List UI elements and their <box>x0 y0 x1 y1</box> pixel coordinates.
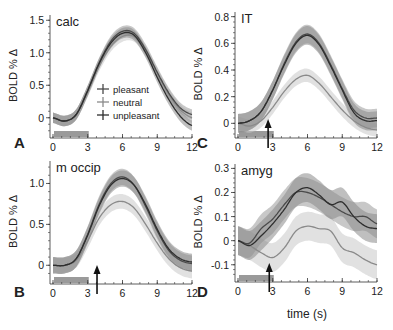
y-tick-label: 0.2 <box>214 186 229 198</box>
stimulus-bar <box>54 277 89 283</box>
y-tick-label: -0.1 <box>211 259 229 271</box>
panel-title: calc <box>56 14 80 29</box>
legend-label-unpleasant: unpleasant <box>113 110 160 121</box>
panel-title: IT <box>241 11 253 26</box>
y-tick-label: 0.6 <box>214 37 229 49</box>
x-tick-label: 9 <box>154 141 160 153</box>
y-tick-label: 1.0 <box>29 177 44 189</box>
x-tick-label: 9 <box>339 285 345 297</box>
y-tick-label: 0.2 <box>214 91 229 103</box>
y-tick-label: 1.5 <box>29 14 44 26</box>
x-tick-label: 12 <box>371 285 383 297</box>
y-axis-label: BOLD % Δ <box>7 194 19 248</box>
y-tick-label: 0 <box>38 259 44 271</box>
y-axis-label: BOLD % Δ <box>192 47 204 101</box>
y-tick-label: 0 <box>223 235 229 247</box>
y-tick-label: 0.5 <box>29 218 44 230</box>
x-tick-label: 0 <box>235 141 241 153</box>
panel-c: 00.20.40.60.8BOLD % Δ036912ITC <box>192 11 383 153</box>
panel-a: 00.51.01.5BOLD % Δ036912calcApleasantneu… <box>7 14 198 153</box>
arrow-icon <box>94 265 101 274</box>
legend-label-pleasant: pleasant <box>113 84 149 95</box>
panel-letter: C <box>197 134 208 151</box>
error-band-unpleasant <box>53 170 192 274</box>
y-tick-label: 0.4 <box>214 64 229 76</box>
y-tick-label: 0.3 <box>214 162 229 174</box>
x-tick-label: 6 <box>120 141 126 153</box>
panel-letter: D <box>197 283 208 300</box>
x-tick-label: 12 <box>371 141 383 153</box>
y-tick-label: 0.8 <box>214 11 229 23</box>
y-axis-label: BOLD % Δ <box>192 195 204 249</box>
x-tick-label: 6 <box>305 141 311 153</box>
legend-label-neutral: neutral <box>113 97 142 108</box>
legend: pleasantneutralunpleasant <box>97 84 160 121</box>
x-tick-label: 9 <box>339 141 345 153</box>
y-tick-label: 0 <box>223 117 229 129</box>
x-tick-label: 3 <box>85 287 91 299</box>
figure-canvas: 00.51.01.5BOLD % Δ036912calcApleasantneu… <box>0 0 393 330</box>
x-tick-label: 6 <box>120 287 126 299</box>
y-tick-label: 1.0 <box>29 47 44 59</box>
y-tick-label: 0.5 <box>29 79 44 91</box>
panels-container: 00.51.01.5BOLD % Δ036912calcApleasantneu… <box>7 11 383 300</box>
y-axis-label: BOLD % Δ <box>7 48 19 102</box>
x-tick-label: 3 <box>85 141 91 153</box>
x-tick-label: 9 <box>154 287 160 299</box>
panel-letter: A <box>14 134 25 151</box>
y-tick-label: 0.1 <box>214 211 229 223</box>
stimulus-bar <box>54 131 89 137</box>
x-tick-label: 6 <box>305 285 311 297</box>
x-tick-label: 0 <box>235 285 241 297</box>
panel-b: 00.51.0BOLD % Δ036912m occipB <box>7 160 198 300</box>
x-tick-label: 3 <box>270 285 276 297</box>
x-axis-label: time (s) <box>287 307 327 321</box>
panel-letter: B <box>14 283 25 300</box>
y-tick-label: 0 <box>38 112 44 124</box>
line-neutral <box>238 75 377 130</box>
panel-title: amyg <box>241 163 273 178</box>
x-tick-label: 0 <box>50 141 56 153</box>
x-tick-label: 0 <box>50 287 56 299</box>
panel-d: -0.100.10.20.3BOLD % Δ036912amygD <box>192 162 383 300</box>
error-band-neutral <box>238 69 377 137</box>
panel-title: m occip <box>56 160 101 175</box>
x-tick-label: 3 <box>270 141 276 153</box>
